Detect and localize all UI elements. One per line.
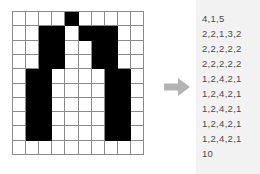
encoding-line: 2,2,2,2,2 bbox=[202, 41, 260, 56]
grid-cell bbox=[13, 84, 26, 98]
grid-cell bbox=[92, 126, 105, 140]
grid-cell bbox=[13, 69, 26, 83]
grid-cell bbox=[118, 69, 131, 83]
grid-cell bbox=[79, 112, 92, 126]
grid-cell bbox=[118, 98, 131, 112]
grid-cell bbox=[131, 69, 144, 83]
grid-cell bbox=[105, 98, 118, 112]
encoding-list: 4,1,52,2,1,3,22,2,2,2,22,2,2,2,21,2,4,2,… bbox=[196, 0, 260, 174]
grid-cell bbox=[65, 98, 78, 112]
grid-cell bbox=[131, 12, 144, 26]
grid-cell bbox=[92, 69, 105, 83]
grid-cell bbox=[105, 26, 118, 40]
grid-cell bbox=[79, 141, 92, 155]
grid-cell bbox=[52, 69, 65, 83]
grid-cell bbox=[52, 126, 65, 140]
grid-cell bbox=[105, 112, 118, 126]
encoding-line: 1,2,4,2,1 bbox=[202, 116, 260, 131]
grid-cell bbox=[65, 55, 78, 69]
grid-cell bbox=[131, 41, 144, 55]
grid-cell bbox=[105, 41, 118, 55]
grid-cell bbox=[92, 26, 105, 40]
grid-cell bbox=[52, 41, 65, 55]
encoding-line: 1,2,4,2,1 bbox=[202, 86, 260, 101]
grid-cell bbox=[131, 55, 144, 69]
grid-cell bbox=[92, 12, 105, 26]
grid-cell bbox=[52, 112, 65, 126]
grid-cell bbox=[26, 69, 39, 83]
grid-cell bbox=[92, 55, 105, 69]
grid-cell bbox=[52, 141, 65, 155]
grid-cell bbox=[92, 112, 105, 126]
right-arrow-icon bbox=[163, 76, 191, 98]
grid-cell bbox=[13, 112, 26, 126]
grid-cell bbox=[79, 12, 92, 26]
grid-cell bbox=[105, 84, 118, 98]
grid-cell bbox=[118, 141, 131, 155]
grid-cell bbox=[105, 69, 118, 83]
grid-cell bbox=[13, 55, 26, 69]
grid-cell bbox=[39, 84, 52, 98]
grid-cell bbox=[26, 12, 39, 26]
grid-cell bbox=[118, 126, 131, 140]
grid-cell bbox=[39, 98, 52, 112]
grid-cell bbox=[26, 26, 39, 40]
grid-cell bbox=[118, 12, 131, 26]
grid-cell bbox=[26, 126, 39, 140]
grid-cell bbox=[79, 126, 92, 140]
grid-cell bbox=[26, 55, 39, 69]
grid-cell bbox=[79, 26, 92, 40]
run-length-encoding-figure: 4,1,52,2,1,3,22,2,2,2,22,2,2,2,21,2,4,2,… bbox=[0, 0, 260, 174]
grid-cell bbox=[39, 12, 52, 26]
grid-cell bbox=[65, 41, 78, 55]
grid-cell bbox=[39, 41, 52, 55]
bitmap-grid-panel bbox=[12, 11, 144, 155]
grid-cell bbox=[52, 26, 65, 40]
grid-cell bbox=[118, 26, 131, 40]
grid-cell bbox=[131, 26, 144, 40]
grid-cell bbox=[13, 98, 26, 112]
grid-cell bbox=[65, 141, 78, 155]
grid-cell bbox=[26, 41, 39, 55]
grid-cell bbox=[105, 55, 118, 69]
encoding-line: 2,2,1,3,2 bbox=[202, 26, 260, 41]
encoding-line: 1,2,4,2,1 bbox=[202, 131, 260, 146]
grid-cell bbox=[131, 126, 144, 140]
grid-cell bbox=[79, 41, 92, 55]
grid-cell bbox=[65, 69, 78, 83]
grid-cell bbox=[131, 141, 144, 155]
encoding-line: 2,2,2,2,2 bbox=[202, 56, 260, 71]
grid-cell bbox=[52, 84, 65, 98]
grid-cell bbox=[39, 55, 52, 69]
grid-cell bbox=[92, 84, 105, 98]
grid-cell bbox=[118, 55, 131, 69]
grid-cell bbox=[65, 112, 78, 126]
grid-cell bbox=[92, 98, 105, 112]
grid-cell bbox=[79, 84, 92, 98]
grid-cell bbox=[13, 12, 26, 26]
grid-cell bbox=[65, 126, 78, 140]
grid-cell bbox=[92, 141, 105, 155]
grid-cell bbox=[92, 41, 105, 55]
grid-cell bbox=[26, 98, 39, 112]
grid-cell bbox=[39, 126, 52, 140]
grid-cell bbox=[39, 69, 52, 83]
grid-cell bbox=[118, 41, 131, 55]
grid-cell bbox=[79, 98, 92, 112]
grid-cell bbox=[39, 112, 52, 126]
grid-cell bbox=[118, 84, 131, 98]
grid-cell bbox=[105, 141, 118, 155]
grid-cell bbox=[131, 112, 144, 126]
grid-cell bbox=[39, 141, 52, 155]
grid-cell bbox=[65, 84, 78, 98]
grid-cell bbox=[131, 98, 144, 112]
grid-cell bbox=[26, 84, 39, 98]
grid-cell bbox=[13, 141, 26, 155]
grid-cell bbox=[65, 12, 78, 26]
grid-cell bbox=[131, 84, 144, 98]
grid-cell bbox=[13, 126, 26, 140]
grid-cell bbox=[52, 55, 65, 69]
grid-cell bbox=[13, 41, 26, 55]
grid-cell bbox=[79, 69, 92, 83]
bitmap-grid bbox=[12, 11, 144, 155]
